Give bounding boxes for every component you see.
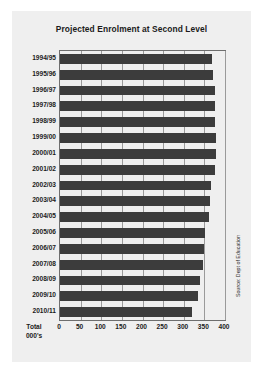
bar: [60, 260, 203, 270]
x-axis-title-line1: Total: [12, 323, 56, 332]
y-axis-label: 2003/04: [32, 196, 56, 203]
y-axis-label: 1994/95: [32, 54, 56, 61]
bar-row: [60, 212, 225, 222]
bar-row: [60, 70, 225, 80]
x-axis-tick: 250: [157, 323, 168, 330]
source-note-container: Source: Dept of Education: [232, 211, 244, 321]
bar: [60, 149, 216, 159]
bar-row: [60, 149, 225, 159]
bar-row: [60, 54, 225, 64]
bar-row: [60, 244, 225, 254]
y-axis-label: 2005/06: [32, 228, 56, 235]
bar-series: [60, 51, 225, 320]
y-axis-label: 1999/00: [32, 133, 56, 140]
bar-row: [60, 196, 225, 206]
x-axis-tick-labels: 050100150200250300350400: [59, 323, 226, 337]
bar: [60, 196, 210, 206]
bar-row: [60, 181, 225, 191]
y-axis-label: 2007/08: [32, 260, 56, 267]
x-axis-title-line2: 000's: [12, 332, 56, 341]
bar: [60, 291, 198, 301]
y-axis-label: 2002/03: [32, 181, 56, 188]
x-axis-tick: 100: [95, 323, 106, 330]
bar-row: [60, 228, 225, 238]
bar: [60, 101, 215, 111]
bar-row: [60, 307, 225, 317]
x-axis-tick: 0: [57, 323, 61, 330]
y-axis-label: 2006/07: [32, 244, 56, 251]
y-axis-label: 1995/96: [32, 70, 56, 77]
bar-row: [60, 165, 225, 175]
y-axis-label: 2008/09: [32, 275, 56, 282]
bar-row: [60, 260, 225, 270]
bar: [60, 86, 215, 96]
page-title: Projected Enrolment at Second Level: [12, 24, 251, 34]
y-axis-label: 2009/10: [32, 291, 56, 298]
y-axis-label: 1996/97: [32, 86, 56, 93]
x-axis-tick: 50: [76, 323, 83, 330]
bar-row: [60, 133, 225, 143]
y-axis-label: 2000/01: [32, 149, 56, 156]
bar: [60, 133, 216, 143]
source-note: Source: Dept of Education: [235, 235, 241, 297]
chart-figure: Projected Enrolment at Second Level 1994…: [12, 11, 251, 362]
bar: [60, 244, 204, 254]
bar-row: [60, 101, 225, 111]
x-axis-tick: 200: [136, 323, 147, 330]
x-axis-tick: 150: [115, 323, 126, 330]
y-axis-label: 1998/99: [32, 117, 56, 124]
y-axis-label: 2001/02: [32, 165, 56, 172]
x-axis-tick: 400: [218, 323, 229, 330]
bar: [60, 70, 213, 80]
bar-row: [60, 276, 225, 286]
bar-row: [60, 86, 225, 96]
bar-row: [60, 291, 225, 301]
y-axis-label: 1997/98: [32, 101, 56, 108]
bar: [60, 276, 200, 286]
bar: [60, 228, 205, 238]
y-axis-label: 2004/05: [32, 212, 56, 219]
x-axis-title: Total 000's: [12, 323, 56, 340]
bar: [60, 181, 211, 191]
y-axis-label: 2010/11: [33, 307, 56, 314]
bar: [60, 165, 215, 175]
bar: [60, 212, 209, 222]
y-axis-category-labels: 1994/951995/961996/971997/981998/991999/…: [12, 50, 56, 321]
bar-row: [60, 117, 225, 127]
plot-area: [59, 50, 226, 321]
bar: [60, 307, 192, 317]
gridline: [225, 51, 226, 320]
x-axis-tick: 350: [198, 323, 209, 330]
x-axis-tick: 300: [177, 323, 188, 330]
bar: [60, 117, 215, 127]
bar: [60, 54, 212, 64]
